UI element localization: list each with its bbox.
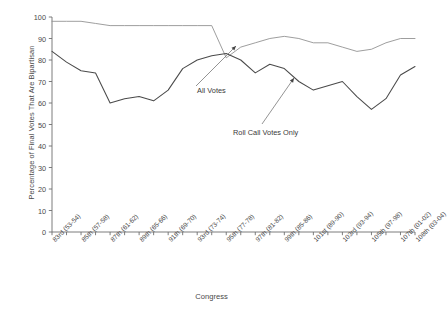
x-axis-title: Congress xyxy=(0,292,423,301)
annotation-leader-lines xyxy=(196,46,294,124)
data-series-layer xyxy=(52,21,415,109)
annotation-roll-call-votes: Roll Call Votes Only xyxy=(233,128,298,137)
annotation-all-votes: All Votes xyxy=(197,86,226,95)
